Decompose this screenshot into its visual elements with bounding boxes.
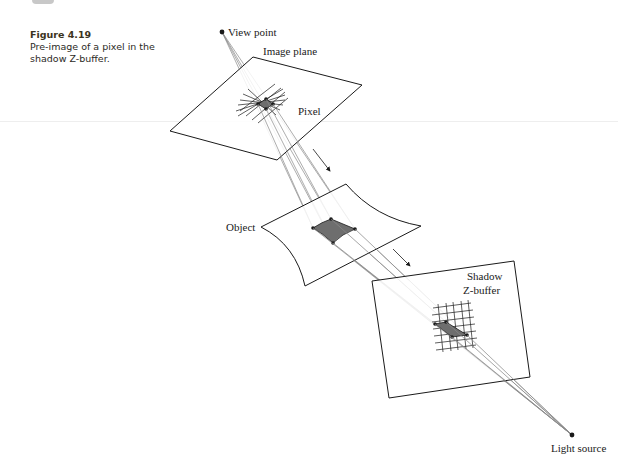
label-image-plane: Image plane <box>263 45 317 57</box>
direction-arrow-2 <box>393 249 410 266</box>
image-plane <box>170 57 362 160</box>
direction-arrow-1 <box>313 149 330 171</box>
view-point-marker <box>220 30 225 35</box>
shadow-zbuffer-plane <box>372 261 530 398</box>
label-zbuffer: Z-buffer <box>463 284 500 296</box>
label-shadow: Shadow <box>467 270 503 282</box>
label-object: Object <box>226 221 255 233</box>
shadow-zbuffer-diagram: View point Image plane Pixel Object Shad… <box>0 0 618 470</box>
light-source-marker <box>570 433 575 438</box>
label-pixel: Pixel <box>298 105 321 117</box>
label-view-point: View point <box>228 26 277 38</box>
object-surface <box>261 184 421 286</box>
label-light-source: Light source <box>551 442 606 454</box>
